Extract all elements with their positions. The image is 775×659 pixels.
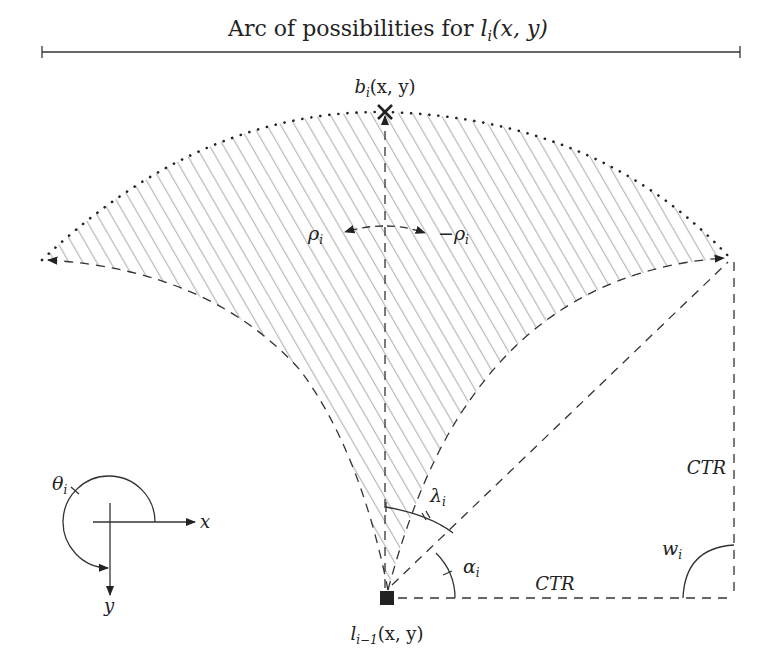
label-rho-right: −ρi <box>438 222 469 247</box>
label-axis-y: y <box>103 595 115 616</box>
label-b-i: bi(x, y) <box>354 76 415 100</box>
label-lambda: λi <box>429 484 446 509</box>
diagram-title: Arc of possibilities for li(x, y) <box>227 16 548 44</box>
span-bar <box>42 46 740 58</box>
label-axis-x: x <box>200 511 210 532</box>
axes-icon <box>63 476 195 595</box>
alpha-arc <box>436 553 455 598</box>
label-ctr-vertical: CTR <box>687 457 726 478</box>
omega-arc <box>683 545 734 598</box>
label-theta: θi <box>52 472 67 497</box>
label-alpha: αi <box>463 555 480 580</box>
origin-square <box>380 591 394 605</box>
arc-diagram: Arc of possibilities for li(x, y) bi(x, … <box>0 0 775 659</box>
label-ctr-horizontal: CTR <box>535 573 574 594</box>
hatched-region <box>42 112 730 590</box>
label-omega: wi <box>662 537 682 562</box>
label-l-i-1: li−1(x, y) <box>350 623 423 647</box>
